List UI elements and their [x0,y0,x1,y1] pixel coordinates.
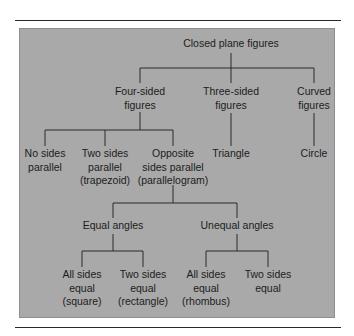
node-label-line: Unequal angles [201,219,274,233]
node-label-line: (trapezoid) [80,174,130,188]
node-three-sided-figures: Three-sided figures [203,85,259,112]
node-label-line: Equal angles [83,219,144,233]
node-label-line: (parallelogram) [138,174,209,188]
node-circle: Circle [301,147,328,161]
node-label-line: Two sides [118,268,168,282]
node-label-line: Triangle [212,147,250,161]
node-label-line: equal [245,282,292,296]
node-label-line: (square) [62,295,101,309]
node-label-line: Four-sided [115,85,165,99]
node-trapezoid: Two sides parallel (trapezoid) [80,147,130,188]
node-label-line: No sides [25,147,66,161]
node-label-line: parallel [25,161,66,175]
node-label-line: Opposite [138,147,209,161]
node-label-line: equal [118,282,168,296]
node-two-sides-equal: Two sides equal [245,268,292,295]
node-label-line: parallel [80,161,130,175]
node-label-line: sides parallel [138,161,209,175]
node-closed-plane-figures: Closed plane figures [183,37,279,51]
node-label-line: figures [203,99,259,113]
node-label-line: Curved [297,85,331,99]
node-label-line: equal [62,282,101,296]
node-label: Closed plane figures [183,37,279,51]
node-label-line: Two sides [80,147,130,161]
node-rectangle: Two sides equal (rectangle) [118,268,168,309]
top-rule [15,20,341,21]
bottom-rule [15,327,341,328]
node-four-sided-figures: Four-sided figures [115,85,165,112]
node-parallelogram: Opposite sides parallel (parallelogram) [138,147,209,188]
node-label-line: All sides [62,268,101,282]
node-label-line: figures [115,99,165,113]
node-unequal-angles: Unequal angles [201,219,274,233]
node-rhombus: All sides equal (rhombus) [182,268,230,309]
node-equal-angles: Equal angles [83,219,144,233]
node-label-line: (rectangle) [118,295,168,309]
node-label-line: equal [182,282,230,296]
node-curved-figures: Curved figures [297,85,331,112]
node-label-line: figures [297,99,331,113]
node-label-line: Three-sided [203,85,259,99]
node-label-line: (rhombus) [182,295,230,309]
node-label-line: Circle [301,147,328,161]
node-label-line: Two sides [245,268,292,282]
node-label-line: All sides [182,268,230,282]
node-no-sides-parallel: No sides parallel [25,147,66,174]
node-triangle: Triangle [212,147,250,161]
node-square: All sides equal (square) [62,268,101,309]
